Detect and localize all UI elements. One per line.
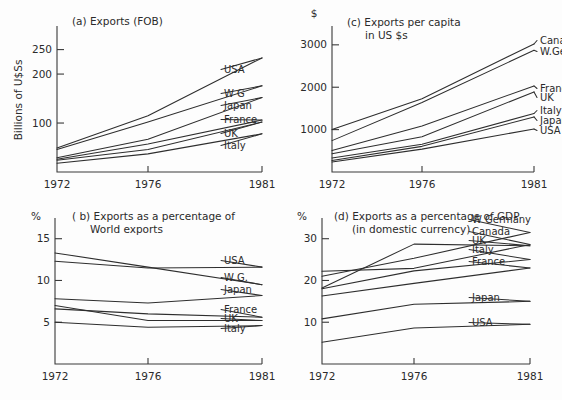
series-leader-c-3 xyxy=(534,92,537,98)
series-label-a-uk: UK xyxy=(224,128,238,139)
series-line-c-canada xyxy=(332,44,534,130)
panel-title-b: ( b) Exports as a percentage of xyxy=(72,210,235,222)
y-tick-label-c-0: 3000 xyxy=(300,38,327,50)
series-label-a-wg: W G xyxy=(224,88,245,99)
x-tick-label-c-1: 1976 xyxy=(409,178,436,190)
series-label-d-france: France xyxy=(472,256,505,267)
x-tick-label-a-0: 1972 xyxy=(44,178,71,190)
series-label-c-canada: Canada xyxy=(540,35,562,46)
series-label-b-japan: Japan xyxy=(223,284,252,295)
y-tick-label-a-1: 200 xyxy=(32,68,52,80)
x-tick-label-a-1: 1976 xyxy=(135,178,162,190)
y-tick-label-d-2: 10 xyxy=(304,316,317,328)
series-leader-c-0 xyxy=(534,41,537,44)
x-tick-label-b-0: 1972 xyxy=(42,370,69,382)
series-label-b-wg: W G. xyxy=(224,272,248,283)
series-line-c-wgermany xyxy=(332,50,534,140)
series-label-d-italy: Italy xyxy=(472,244,494,255)
panel-title-a: (a) Exports (FOB) xyxy=(72,15,163,27)
series-line-c-japan xyxy=(332,117,534,161)
x-tick-label-c-0: 1972 xyxy=(319,178,346,190)
x-tick-label-c-2: 1981 xyxy=(521,178,548,190)
chart-panel-d: 302010197219761981%(d) Exports as a perc… xyxy=(272,196,562,400)
x-tick-label-d-1: 1976 xyxy=(401,370,428,382)
series-line-d-usa xyxy=(322,324,530,342)
series-leader-c-5 xyxy=(534,117,537,121)
x-tick-label-d-2: 1981 xyxy=(517,370,544,382)
y-tick-label-c-1: 2000 xyxy=(300,81,327,93)
series-label-d-wgermany: W Germany xyxy=(472,214,531,225)
y-tick-label-a-2: 100 xyxy=(32,117,52,129)
series-label-a-usa: USA xyxy=(224,64,245,75)
series-label-a-japan: Japan xyxy=(223,100,252,111)
series-line-c-usa xyxy=(332,129,534,162)
panel-subtitle-b: World exports xyxy=(90,223,163,235)
unit-label-c: $ xyxy=(311,7,318,19)
y-tick-label-b-0: 15 xyxy=(37,232,50,244)
series-label-c-usa: USA xyxy=(540,125,561,136)
y-tick-label-d-1: 20 xyxy=(304,274,317,286)
series-line-b-japan xyxy=(55,296,262,304)
chart-axes-c xyxy=(332,26,534,172)
y-axis-title-a: Billions of U$Ss xyxy=(12,60,24,141)
series-label-c-uk: UK xyxy=(540,92,554,103)
panel-title-c: (c) Exports per capita xyxy=(347,16,461,28)
x-tick-label-d-0: 1972 xyxy=(309,370,336,382)
series-leader-c-2 xyxy=(534,86,537,89)
chart-panel-b: 15105197219761981%( b) Exports as a perc… xyxy=(0,196,290,400)
exports-figure: 250200100197219761981Billions of U$Ss(a)… xyxy=(0,0,562,400)
x-tick-label-b-1: 1976 xyxy=(135,370,162,382)
series-leader-c-4 xyxy=(534,111,537,114)
series-label-b-italy: Italy xyxy=(224,323,246,334)
y-tick-label-b-2: 5 xyxy=(43,316,50,328)
chart-panel-a: 250200100197219761981Billions of U$Ss(a)… xyxy=(0,0,290,200)
series-label-d-japan: Japan xyxy=(471,292,500,303)
unit-label-b: % xyxy=(31,210,41,222)
panel-subtitle-d: (in domestic currency) xyxy=(352,223,470,235)
series-leader-c-1 xyxy=(534,50,537,51)
y-tick-label-a-0: 250 xyxy=(32,43,52,55)
series-line-c-italy xyxy=(332,114,534,159)
series-line-c-uk xyxy=(332,92,534,154)
series-label-a-france: France xyxy=(224,114,257,125)
series-label-a-italy: Italy xyxy=(224,140,246,151)
y-tick-label-c-2: 1000 xyxy=(300,123,327,135)
series-leader-c-6 xyxy=(534,129,537,131)
series-label-c-wgermany: W.Germany xyxy=(540,46,562,57)
unit-label-d: % xyxy=(297,210,307,222)
series-label-b-usa: USA xyxy=(224,255,245,266)
y-tick-label-d-0: 30 xyxy=(304,232,317,244)
panel-subtitle-c: in US $s xyxy=(365,29,408,41)
chart-panel-c: 300020001000197219761981$(c) Exports per… xyxy=(272,0,562,200)
series-line-d-japan xyxy=(322,301,530,319)
series-label-d-usa: USA xyxy=(472,317,493,328)
y-tick-label-b-1: 10 xyxy=(37,274,50,286)
